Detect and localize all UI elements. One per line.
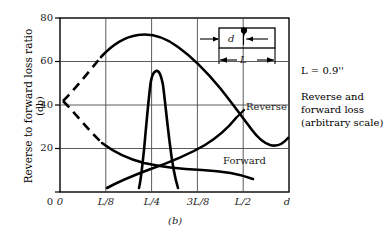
x-tick-0: 0: [37, 196, 83, 207]
inset-d-arrow-left: [213, 36, 219, 41]
curve-reverse-envelope: [101, 35, 288, 146]
inset-L-arrow-left: [220, 57, 227, 63]
curve-label-forward: Forward: [223, 155, 266, 166]
panel-identifier: (b): [168, 215, 182, 226]
curve-reverse-dashed: [63, 57, 101, 101]
x-tick-L2: L/2: [220, 196, 266, 207]
note-line-forward-loss: forward loss: [301, 103, 364, 116]
note-line-arbitrary-scale: (arbitrary scale): [301, 116, 383, 129]
x-tick-L4: L/4: [129, 196, 175, 207]
inset-d-arrow-right: [247, 36, 253, 41]
y-tick-80: 80: [27, 12, 53, 23]
y-tick-marks: [55, 18, 60, 192]
x-axis-label: d: [264, 196, 310, 207]
y-tick-20: 20: [27, 142, 53, 153]
y-tick-40: 40: [27, 99, 53, 110]
inset-label-L: L: [240, 54, 247, 65]
inset-device-diagram: [200, 27, 275, 64]
note-length-value: L = 0.9'': [301, 64, 344, 77]
inset-label-d: d: [228, 33, 234, 44]
x-tick-L8: L/8: [83, 196, 129, 207]
inset-probe-dot: [241, 27, 247, 33]
curve-label-reverse: Reverse: [246, 101, 287, 112]
note-line-reverse-and: Reverse and: [301, 90, 364, 103]
y-tick-60: 60: [27, 55, 53, 66]
x-tick-3L8: 3L/8: [175, 196, 221, 207]
inset-L-arrow-right: [267, 57, 274, 63]
curve-forward-dashed: [63, 101, 102, 143]
